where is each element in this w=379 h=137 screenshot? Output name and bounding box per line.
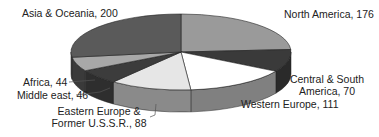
label-western-europe: Western Europe, 111 [241, 98, 338, 110]
label-middle-east: Middle east, 46 [17, 89, 88, 101]
label-eastern-europe: Eastern Europe & Former U.S.S.R., 88 [44, 105, 154, 129]
pie-slice-6 [71, 14, 181, 57]
label-asia-oceania: Asia & Oceania, 200 [22, 7, 118, 19]
label-line: Central & South [288, 73, 366, 85]
pie-slice-0 [181, 14, 291, 52]
label-line: Eastern Europe & [44, 105, 154, 117]
label-line: America, 70 [288, 85, 366, 97]
label-central-south-america: Central & South America, 70 [288, 73, 366, 97]
label-north-america: North America, 176 [284, 8, 374, 20]
label-africa: Africa, 44 [23, 76, 67, 88]
label-line: Former U.S.S.R., 88 [44, 117, 154, 129]
